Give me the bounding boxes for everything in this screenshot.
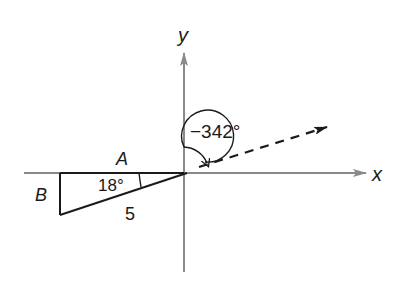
side-b-label: B <box>35 185 47 205</box>
side-a-label: A <box>115 149 128 169</box>
hypotenuse-label: 5 <box>125 204 135 224</box>
x-axis-label: x <box>371 163 383 185</box>
angle-label: 18° <box>98 176 124 195</box>
rotation-angle-label: −342° <box>190 121 240 142</box>
rotation-arc-head <box>184 147 207 163</box>
y-axis-label: y <box>176 24 189 46</box>
angle-arc <box>139 173 141 187</box>
coordinate-diagram: x y A B 18° 5 −342° <box>0 0 404 287</box>
